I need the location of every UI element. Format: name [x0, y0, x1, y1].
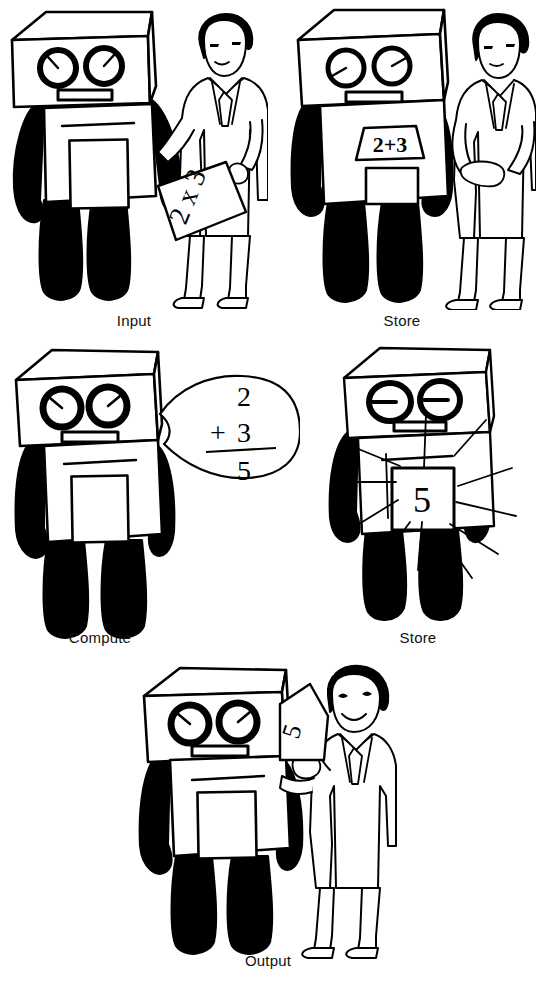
- robot-eye-left: [369, 383, 411, 421]
- person-leg-right: [358, 888, 380, 950]
- panel-input-artwork: 2 x 3: [0, 0, 268, 310]
- robot-eye-right: [374, 48, 410, 84]
- robot-chest-display: [69, 139, 128, 208]
- person-shoe-left: [174, 298, 204, 308]
- panel-compute: 2 + 3 5 Compute: [0, 340, 300, 670]
- person-mouth: [215, 62, 229, 65]
- robot-banner-text: 2+3: [373, 132, 408, 157]
- robot-mouth: [394, 422, 446, 431]
- panel-store-1-caption: Store: [268, 313, 536, 328]
- person-head: [204, 20, 246, 76]
- robot-mouth: [346, 92, 402, 102]
- person-figure: [446, 14, 536, 310]
- robot-eye-right: [86, 48, 122, 84]
- robot-eye-right: [89, 387, 127, 425]
- robot-leg-left: [40, 200, 83, 300]
- person-mouth: [490, 64, 503, 66]
- robot-arm-left: [16, 440, 48, 558]
- person-leg-left: [458, 238, 478, 302]
- robot-eye-left: [43, 389, 81, 427]
- person-head: [478, 22, 520, 78]
- robot-eye-left: [328, 50, 364, 86]
- panel-compute-caption: Compute: [0, 630, 200, 645]
- person-eye-left: [484, 46, 493, 49]
- person-shoe-right: [490, 300, 522, 310]
- robot-eye-right: [219, 703, 257, 741]
- robot-leg-right: [102, 540, 147, 638]
- person-shoe-right: [218, 298, 248, 308]
- bubble-operator: +: [210, 417, 226, 448]
- robot-arm-left: [292, 100, 324, 216]
- panel-output-caption: Output: [134, 953, 402, 968]
- bubble-operand-1: 2: [237, 381, 251, 412]
- robot-leg-left: [44, 540, 89, 638]
- robot-head-side: [148, 12, 156, 103]
- panel-input-caption: Input: [0, 313, 268, 328]
- robot-chest-display: [366, 168, 418, 204]
- robot-leg-left: [324, 202, 369, 302]
- person-eye-right: [506, 44, 515, 47]
- person-shoe-left: [446, 300, 478, 310]
- robot-chest-display: [197, 791, 256, 858]
- robot-arm-left: [140, 754, 172, 874]
- panel-store-1-artwork: 2+3: [268, 0, 536, 310]
- robot-mouth: [192, 746, 248, 756]
- panel-store-2-artwork: 5: [300, 340, 536, 640]
- panel-output-artwork: 5: [134, 660, 402, 960]
- panel-store-1: 2+3 Store: [268, 0, 536, 340]
- person-eye-right: [232, 42, 241, 45]
- robot-chest-display: [71, 476, 128, 543]
- robot-leg-right: [88, 200, 131, 300]
- person-leg-left: [314, 888, 334, 950]
- robot-eye-left: [171, 705, 209, 743]
- robot-mouth: [62, 432, 118, 442]
- robot-arm-left: [14, 103, 44, 222]
- robot-leg-left: [363, 530, 406, 620]
- thought-bubble: [160, 376, 300, 478]
- person-eye-left: [210, 44, 219, 47]
- panel-output: 5 Output: [134, 660, 402, 992]
- person-head: [332, 674, 380, 732]
- person-leg-left: [184, 236, 204, 300]
- person-leg-right: [228, 236, 250, 300]
- panel-input: 2 x 3 Input: [0, 0, 268, 340]
- panel-store-2: 5 Store: [300, 340, 536, 670]
- bubble-result: 5: [237, 455, 251, 486]
- robot-leg-right: [419, 530, 462, 620]
- robot-leg-right: [378, 202, 423, 302]
- robot-leg-left: [172, 856, 217, 954]
- robot-mouth: [58, 90, 112, 100]
- panel-store-2-caption: Store: [300, 630, 536, 645]
- robot-eye-left: [40, 50, 76, 86]
- figure-sheet: 2 x 3 Input: [0, 0, 536, 992]
- panel-compute-artwork: 2 + 3 5: [0, 340, 300, 640]
- robot-leg-right: [228, 856, 273, 954]
- bubble-operand-2: 3: [237, 417, 251, 448]
- robot-result-text: 5: [413, 480, 431, 520]
- person-leg-right: [502, 238, 524, 302]
